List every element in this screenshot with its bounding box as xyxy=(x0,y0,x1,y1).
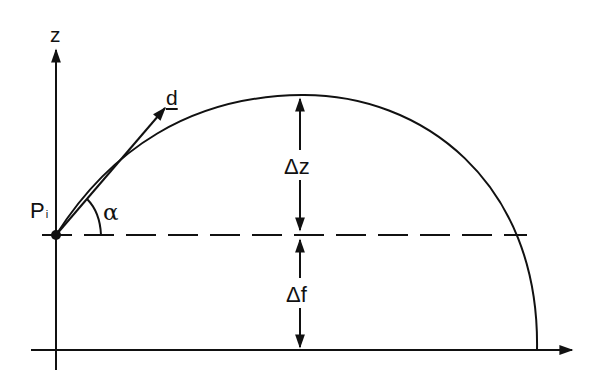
delta-f-label: Δf xyxy=(286,282,307,308)
angle-alpha-label: α xyxy=(103,201,119,224)
diagram-svg xyxy=(0,0,595,378)
z-axis-label: z xyxy=(50,24,61,45)
angle-alpha-arc xyxy=(87,199,101,235)
delta-z-label: Δz xyxy=(284,154,310,180)
launch-point-dot xyxy=(51,230,61,240)
point-label-main: P xyxy=(30,198,45,223)
launch-point-label: Pi xyxy=(30,200,48,222)
trajectory-curve xyxy=(56,95,537,350)
direction-vector-label: d xyxy=(166,87,178,108)
trajectory-diagram: z d Pi α Δz Δf xyxy=(0,0,595,378)
point-label-subscript: i xyxy=(46,208,48,220)
